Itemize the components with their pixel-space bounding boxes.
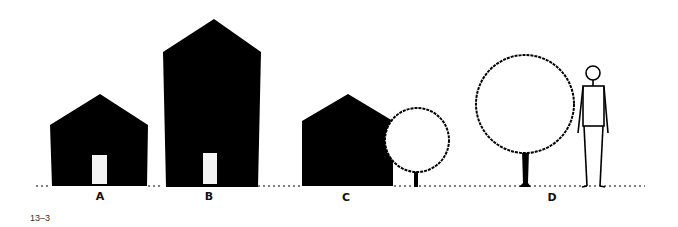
- house-b: [163, 19, 261, 187]
- door-a: [92, 155, 107, 184]
- label-b: B: [205, 190, 213, 203]
- scale-comparison-figure: A B C D 13–3: [0, 0, 678, 227]
- house-a: [50, 94, 148, 186]
- label-c: C: [342, 191, 350, 204]
- tree-c: [385, 108, 449, 187]
- door-b: [203, 153, 217, 184]
- label-a: A: [96, 190, 105, 203]
- figure-number: 13–3: [30, 213, 50, 223]
- person: [578, 66, 608, 187]
- house-c: [302, 94, 393, 186]
- label-d: D: [547, 191, 556, 204]
- tree-d: [476, 55, 574, 187]
